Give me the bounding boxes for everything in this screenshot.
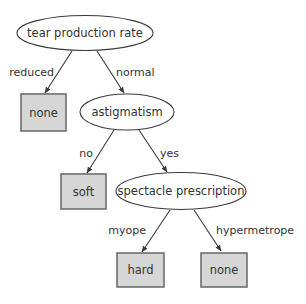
edge-label-reduced: reduced (9, 66, 54, 79)
edge-label-yes: yes (160, 147, 179, 160)
node-astigmatism: astigmatism (80, 94, 174, 130)
leaf-none-reduced: none (21, 94, 66, 131)
edge-label-normal: normal (116, 66, 155, 79)
edges (45, 51, 221, 252)
leaf-label: none (29, 106, 58, 120)
node-spectacle-prescription: spectacle prescription (116, 173, 246, 210)
edge-labels: reduced normal no yes myope hypermetrope (9, 66, 294, 237)
leaf-label: soft (73, 185, 95, 199)
node-label: astigmatism (91, 105, 162, 119)
leaf-label: hard (127, 263, 153, 277)
leaf-label: none (210, 263, 239, 277)
decision-tree: reduced normal no yes myope hypermetrope… (0, 0, 306, 304)
edge-label-no: no (79, 147, 93, 160)
edge-label-hypermetrope: hypermetrope (216, 224, 294, 237)
edge-spectacle-myope (142, 210, 170, 252)
leaf-soft: soft (61, 174, 106, 209)
node-tear-production-rate: tear production rate (17, 16, 153, 51)
leaf-none-hypermetrope: none (201, 253, 247, 287)
node-label: spectacle prescription (118, 184, 245, 198)
leaf-hard: hard (117, 253, 164, 287)
edge-label-myope: myope (108, 224, 146, 237)
node-label: tear production rate (27, 26, 143, 40)
